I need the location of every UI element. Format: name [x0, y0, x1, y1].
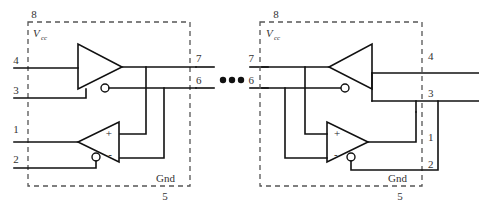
left-wire-pin6-tap-to-comp-minus — [120, 88, 164, 158]
left-pin-1-number: 1 — [13, 123, 19, 135]
right-pin-3-number: 3 — [428, 87, 434, 99]
right-gnd-label: Gnd — [388, 172, 407, 184]
left-vcc-label: V — [33, 27, 41, 39]
left-comparator-bubble-icon — [92, 153, 100, 161]
right-wire-pin7-tap-to-comp-plus — [305, 67, 327, 134]
left-buffer-bubble-icon — [101, 84, 109, 92]
block-continuation-ellipsis — [220, 77, 244, 83]
ellipsis-dot-1 — [220, 77, 226, 83]
right-wire-comparator-bubble-pin2 — [351, 101, 438, 170]
right-pin-7-number: 7 — [249, 52, 255, 64]
right-pin-2-number: 2 — [428, 158, 434, 170]
left-pin-6-number: 6 — [196, 74, 202, 86]
right-pin-6-number: 6 — [249, 74, 255, 86]
left-pin-2-number: 2 — [13, 153, 19, 165]
right-vcc-label: V — [266, 27, 274, 39]
left-vcc-sublabel: cc — [41, 34, 48, 42]
right-pin-5-number: 5 — [397, 190, 403, 202]
right-comparator-bubble-icon — [347, 153, 355, 161]
right-pin-4-number: 4 — [428, 50, 434, 62]
right-vcc-sublabel: cc — [274, 34, 281, 42]
left-comparator-minus-label: - — [108, 148, 112, 160]
right-wire-pin6-tap-to-comp-minus — [285, 88, 327, 158]
left-wire-pin7-tap-to-comp-plus — [120, 67, 146, 134]
right-comparator-minus-label: - — [334, 148, 338, 160]
left-comparator-plus-label: + — [106, 127, 112, 139]
right-buffer-triangle — [329, 44, 372, 89]
left-pin-7-number: 7 — [196, 52, 202, 64]
left-wire-pin2-to-comparator-bubble — [14, 161, 96, 168]
left-pin-4-number: 4 — [13, 54, 19, 66]
left-pin-8-number: 8 — [31, 8, 37, 20]
ellipsis-dot-3 — [238, 77, 244, 83]
left-pin-3-number: 3 — [13, 84, 19, 96]
left-pin-5-number: 5 — [162, 190, 168, 202]
ellipsis-dot-2 — [229, 77, 235, 83]
left-gnd-label: Gnd — [156, 172, 175, 184]
circuit-diagram: 8 V cc Gnd 5 4 3 1 2 7 6 — [0, 0, 479, 221]
left-wire-pin3-to-buffer — [14, 89, 86, 98]
schematic-canvas: 8 V cc Gnd 5 4 3 1 2 7 6 — [0, 0, 479, 221]
right-pin-1-number: 1 — [428, 131, 434, 143]
left-buffer-triangle — [78, 44, 122, 89]
right-ic-block: 8 V cc Gnd 5 7 6 4 3 1 2 — [249, 8, 479, 202]
left-package-boundary — [28, 22, 190, 186]
right-buffer-bubble-icon — [341, 84, 349, 92]
right-wire-comparator-out-pin1 — [367, 112, 416, 142]
right-comparator-plus-label: + — [334, 127, 340, 139]
right-pin-8-number: 8 — [273, 8, 279, 20]
left-ic-block: 8 V cc Gnd 5 4 3 1 2 7 6 — [13, 8, 202, 202]
